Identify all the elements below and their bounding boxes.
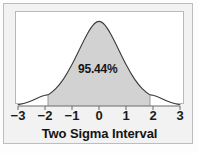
shaded-area-percentage-label: 95.44% <box>78 62 118 76</box>
x-tick-label-3: 3 <box>169 108 191 124</box>
normal-distribution-figure: 95.44% −3 −2 −1 0 1 2 3 Two Sigma Interv… <box>0 0 198 153</box>
x-axis-tick-labels: −3 −2 −1 0 1 2 3 <box>0 108 198 124</box>
x-tick-label-1: 1 <box>115 108 137 124</box>
x-tick-label-2: 2 <box>142 108 164 124</box>
x-tick-label-minus-2: −2 <box>34 108 56 124</box>
x-tick-label-0: 0 <box>88 108 110 124</box>
x-tick-label-minus-3: −3 <box>7 108 29 124</box>
x-axis-caption: Two Sigma Interval <box>15 126 184 141</box>
x-tick-label-minus-1: −1 <box>61 108 83 124</box>
